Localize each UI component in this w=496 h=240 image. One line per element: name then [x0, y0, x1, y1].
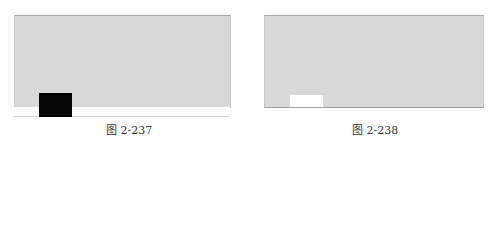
- white-rectangle-marker: [290, 95, 323, 107]
- black-rectangle-marker: [39, 93, 72, 117]
- figure-caption: 图 2-238: [352, 121, 398, 137]
- figure-caption: 图 2-237: [106, 121, 152, 137]
